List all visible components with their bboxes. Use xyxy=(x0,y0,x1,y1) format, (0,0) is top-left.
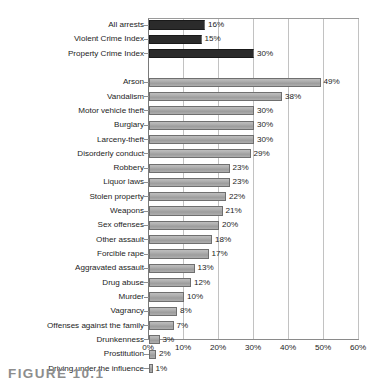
bar-value-weapons: 21% xyxy=(223,204,242,218)
bar-label-aggravated-assault: Aggravated assault xyxy=(75,261,144,275)
bar-weapons xyxy=(149,206,223,215)
x-tick-label-10: 10% xyxy=(175,343,191,352)
bar-stolen-property xyxy=(149,192,226,201)
bar-label-weapons: Weapons xyxy=(110,204,144,218)
x-tick-label-40: 40% xyxy=(280,343,296,352)
bar-label-robbery: Robbery xyxy=(114,161,144,175)
bar-burglary xyxy=(149,121,254,130)
bar-liquor-laws xyxy=(149,178,230,187)
bar-value-drug-abuse: 12% xyxy=(191,276,210,290)
bar-label-murder: Murder xyxy=(118,290,144,304)
bar-row: Vandalism38% xyxy=(0,90,378,104)
bar-sex-offenses xyxy=(149,221,219,230)
bar-label-forcible-rape: Forcible rape xyxy=(97,247,144,261)
bar-motor-vehicle-theft xyxy=(149,106,254,115)
figure-container: All arrests16%Violent Crime Index15%Prop… xyxy=(0,0,378,378)
bar-row: Robbery23% xyxy=(0,161,378,175)
bar-value-violent-crime-index: 15% xyxy=(202,32,221,46)
bar-row: Violent Crime Index15% xyxy=(0,32,378,46)
bar-value-driving-under-the-influence: 1% xyxy=(153,362,168,376)
bar-drug-abuse xyxy=(149,278,191,287)
bar-label-disorderly-conduct: Disorderly conduct xyxy=(77,147,144,161)
bar-forcible-rape xyxy=(149,249,209,258)
bar-value-arson: 49% xyxy=(321,75,340,89)
bar-label-all-arrests: All arrests xyxy=(108,18,144,32)
bar-aggravated-assault xyxy=(149,264,195,273)
bar-vandalism xyxy=(149,92,282,101)
figure-caption: FIGURE 10.1 xyxy=(8,366,104,378)
bar-row: Arson49% xyxy=(0,75,378,89)
bar-label-property-crime-index: Property Crime Index xyxy=(68,47,144,61)
bar-disorderly-conduct xyxy=(149,149,251,158)
bar-arson xyxy=(149,78,321,87)
bar-label-sex-offenses: Sex offenses xyxy=(98,218,144,232)
bar-other-assault xyxy=(149,235,212,244)
bar-row: Property Crime Index30% xyxy=(0,47,378,61)
x-tick-label-20: 20% xyxy=(210,343,226,352)
x-tick-label-0: 0% xyxy=(142,343,154,352)
group-spacer xyxy=(0,61,378,75)
bar-row: Weapons21% xyxy=(0,204,378,218)
bar-row: Disorderly conduct29% xyxy=(0,147,378,161)
bar-value-other-assault: 18% xyxy=(212,233,231,247)
x-tick-label-60: 60% xyxy=(350,343,366,352)
bar-label-larceny-theft: Larceny-theft xyxy=(97,133,144,147)
bar-robbery xyxy=(149,164,230,173)
bar-label-other-assault: Other assault xyxy=(96,233,144,247)
bar-row: Burglary30% xyxy=(0,118,378,132)
bar-row: Stolen property22% xyxy=(0,190,378,204)
bar-row: Sex offenses20% xyxy=(0,218,378,232)
bar-value-motor-vehicle-theft: 30% xyxy=(254,104,273,118)
x-tick-label-50: 50% xyxy=(315,343,331,352)
bar-label-vandalism: Vandalism xyxy=(107,90,144,104)
bar-row: Murder10% xyxy=(0,290,378,304)
bar-row: Vagrancy8% xyxy=(0,304,378,318)
bar-value-stolen-property: 22% xyxy=(226,190,245,204)
bar-rows: All arrests16%Violent Crime Index15%Prop… xyxy=(0,18,378,376)
bar-violent-crime-index xyxy=(149,35,202,44)
bar-property-crime-index xyxy=(149,49,254,58)
bar-label-burglary: Burglary xyxy=(114,118,144,132)
bar-label-motor-vehicle-theft: Motor vehicle theft xyxy=(78,104,144,118)
bar-value-aggravated-assault: 13% xyxy=(195,261,214,275)
bar-label-drug-abuse: Drug abuse xyxy=(102,276,144,290)
bar-value-sex-offenses: 20% xyxy=(219,218,238,232)
bar-row: Aggravated assault13% xyxy=(0,261,378,275)
bar-value-disorderly-conduct: 29% xyxy=(251,147,270,161)
bar-row: Drug abuse12% xyxy=(0,276,378,290)
bar-value-murder: 10% xyxy=(184,290,203,304)
bar-value-burglary: 30% xyxy=(254,118,273,132)
bar-row: Other assault18% xyxy=(0,233,378,247)
bar-row: Motor vehicle theft30% xyxy=(0,104,378,118)
bar-value-property-crime-index: 30% xyxy=(254,47,273,61)
bar-value-liquor-laws: 23% xyxy=(230,175,249,189)
bar-label-violent-crime-index: Violent Crime Index xyxy=(74,32,144,46)
bar-value-larceny-theft: 30% xyxy=(254,133,273,147)
bar-row: Liquor laws23% xyxy=(0,175,378,189)
bar-label-arson: Arson xyxy=(123,75,144,89)
bar-offenses-against-the-family xyxy=(149,321,174,330)
bar-label-vagrancy: Vagrancy xyxy=(111,304,144,318)
x-axis-tick-labels: 0%10%20%30%40%50%60% xyxy=(0,343,378,357)
bar-murder xyxy=(149,292,184,301)
bar-label-offenses-against-the-family: Offenses against the family xyxy=(47,319,144,333)
bar-label-stolen-property: Stolen property xyxy=(89,190,144,204)
bar-larceny-theft xyxy=(149,135,254,144)
bar-value-robbery: 23% xyxy=(230,161,249,175)
bar-value-forcible-rape: 17% xyxy=(209,247,228,261)
bar-value-all-arrests: 16% xyxy=(205,18,224,32)
bar-value-vandalism: 38% xyxy=(282,90,301,104)
bar-vagrancy xyxy=(149,307,177,316)
bar-row: Forcible rape17% xyxy=(0,247,378,261)
bar-row: Offenses against the family7% xyxy=(0,319,378,333)
bar-value-offenses-against-the-family: 7% xyxy=(174,319,189,333)
bar-all-arrests xyxy=(149,20,205,29)
bar-row: All arrests16% xyxy=(0,18,378,32)
x-tick-label-30: 30% xyxy=(245,343,261,352)
bar-label-liquor-laws: Liquor laws xyxy=(103,175,144,189)
bar-row: Larceny-theft30% xyxy=(0,133,378,147)
bar-value-vagrancy: 8% xyxy=(177,304,192,318)
